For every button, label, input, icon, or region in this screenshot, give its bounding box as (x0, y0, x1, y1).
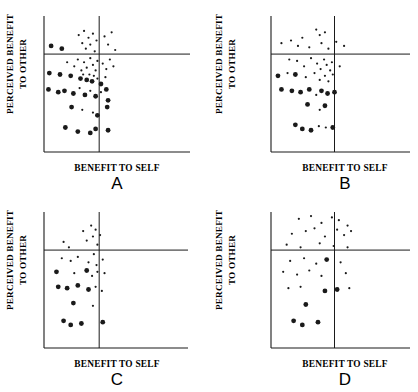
data-point (75, 283, 80, 288)
data-point (280, 42, 282, 44)
data-point (327, 80, 329, 82)
data-point (91, 275, 93, 277)
panel-a-x-axis-label: BENEFIT TO SELF (44, 163, 190, 173)
data-point (101, 290, 103, 292)
data-point (99, 234, 101, 236)
data-point (83, 30, 85, 32)
data-point (325, 126, 327, 128)
data-point (332, 73, 334, 75)
data-point (350, 230, 352, 232)
data-point (319, 88, 324, 93)
four-panel-scatter-figure: PERCEIVED BENEFIT TO OTHER BENEFIT TO SE… (0, 0, 418, 392)
data-point (287, 287, 289, 289)
data-point (282, 271, 284, 273)
data-point (54, 269, 59, 274)
data-point (68, 322, 73, 327)
data-point (68, 246, 70, 248)
data-point (103, 272, 105, 274)
data-point (95, 286, 97, 288)
data-point (82, 230, 84, 232)
data-point (319, 109, 321, 111)
data-point (331, 216, 333, 218)
data-point (61, 318, 66, 323)
data-point (299, 286, 301, 288)
data-point (71, 301, 76, 306)
data-point (79, 87, 81, 89)
data-point (79, 321, 84, 326)
data-point (324, 235, 326, 237)
data-point (106, 128, 111, 133)
data-point (348, 287, 350, 289)
data-point (63, 125, 68, 130)
data-point (112, 65, 114, 67)
data-point (106, 98, 111, 103)
data-point (89, 43, 91, 45)
data-point (310, 215, 312, 217)
panel-a-letter: A (44, 175, 190, 192)
data-point (316, 63, 318, 65)
data-point (326, 64, 328, 66)
panel-d-x-axis-label: BENEFIT TO SELF (271, 359, 418, 369)
data-point (276, 73, 281, 78)
data-point (80, 69, 82, 71)
data-point (319, 79, 321, 81)
data-point (100, 320, 105, 325)
data-point (289, 260, 291, 262)
data-point (95, 69, 97, 71)
panel-c: PERCEIVED BENEFIT TO OTHER BENEFIT TO SE… (0, 196, 209, 392)
data-point (307, 87, 312, 92)
data-point (327, 48, 329, 50)
data-point (92, 305, 94, 307)
data-point (324, 31, 326, 33)
data-point (107, 43, 109, 45)
data-point (298, 218, 300, 220)
data-point (94, 50, 96, 52)
data-point (93, 253, 95, 255)
data-point (93, 94, 98, 99)
panel-c-letter: C (44, 371, 190, 388)
data-point (96, 77, 98, 79)
panel-b-letter: B (271, 175, 418, 192)
data-point (59, 46, 64, 51)
data-point (333, 245, 335, 247)
data-point (95, 264, 97, 266)
data-point (286, 72, 288, 74)
data-point (313, 72, 315, 74)
data-point (305, 102, 310, 107)
data-point (305, 230, 307, 232)
data-point (305, 76, 307, 78)
data-point (324, 257, 329, 262)
data-point (96, 271, 98, 273)
data-point (95, 113, 100, 118)
data-point (319, 242, 321, 244)
data-point (319, 34, 321, 36)
data-point (102, 63, 104, 65)
data-point (68, 73, 73, 78)
data-point (323, 58, 325, 60)
data-point (92, 111, 94, 113)
data-point (114, 49, 116, 51)
panel-a: PERCEIVED BENEFIT TO OTHER BENEFIT TO SE… (0, 0, 209, 196)
data-point (308, 46, 310, 48)
data-point (92, 33, 94, 35)
data-point (62, 88, 67, 93)
data-point (69, 105, 74, 110)
data-point (318, 125, 320, 127)
panel-b-x-axis-label: BENEFIT TO SELF (271, 163, 418, 173)
data-point (291, 233, 293, 235)
data-point (96, 244, 98, 246)
data-point (297, 45, 299, 47)
data-point (104, 87, 109, 92)
data-point (301, 37, 303, 39)
data-point (332, 90, 337, 95)
data-point (300, 322, 305, 327)
data-point (293, 122, 298, 127)
data-point (49, 44, 54, 49)
data-point (92, 235, 94, 237)
data-point (345, 272, 347, 274)
data-point (89, 57, 91, 59)
panel-b: PERCEIVED BENEFIT TO OTHER BENEFIT TO SE… (209, 0, 418, 196)
data-point (320, 275, 322, 277)
data-point (90, 79, 95, 84)
data-point (65, 286, 70, 291)
